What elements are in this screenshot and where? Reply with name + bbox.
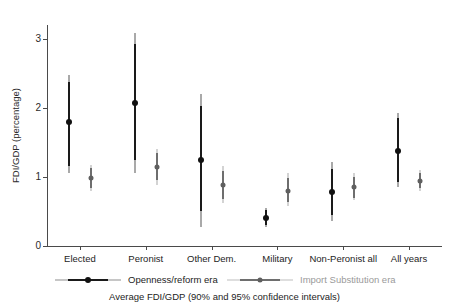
- data-point-marker: [418, 179, 423, 184]
- x-axis-tick-mark: [343, 246, 344, 250]
- legend-marker-icon: [55, 275, 121, 285]
- data-point-marker: [88, 175, 93, 180]
- plot-area: 0123 ElectedPeronistOther Dem.MilitaryNo…: [47, 25, 442, 246]
- legend: Openness/reform era Import Substitution …: [0, 272, 449, 288]
- x-axis-line: [47, 246, 442, 247]
- y-axis-tick-mark: [43, 177, 47, 178]
- legend-label-openness-reform-era: Openness/reform era: [128, 274, 218, 286]
- y-axis-tick-label: 3: [35, 34, 41, 44]
- y-axis-tick-mark: [43, 108, 47, 109]
- legend-marker-icon: [227, 275, 293, 285]
- legend-label-import-substitution-era: Import Substitution era: [300, 274, 396, 286]
- y-axis-tick-mark: [43, 39, 47, 40]
- x-axis-tick-mark: [146, 246, 147, 250]
- x-axis-tick-mark: [80, 246, 81, 250]
- x-axis-tick-label: Military: [262, 253, 292, 265]
- x-axis-tick-mark: [277, 246, 278, 250]
- legend-item-import-substitution-era[interactable]: Import Substitution era: [227, 272, 396, 288]
- x-axis-tick-label: Non-Peronist all: [309, 253, 377, 265]
- x-axis-tick-label: Peronist: [128, 253, 163, 265]
- data-point-marker: [154, 164, 159, 169]
- data-point-marker: [263, 215, 269, 221]
- y-axis-line: [47, 25, 48, 246]
- data-point-marker: [395, 148, 401, 154]
- legend-item-openness-reform-era[interactable]: Openness/reform era: [55, 272, 218, 288]
- x-axis-tick-label: Elected: [64, 253, 96, 265]
- fdi-gdp-confidence-interval-chart: 0123 ElectedPeronistOther Dem.MilitaryNo…: [0, 0, 449, 308]
- x-axis-tick-mark: [409, 246, 410, 250]
- data-point-marker: [220, 183, 225, 188]
- chart-caption: Average FDI/GDP (90% and 95% confidence …: [0, 291, 449, 303]
- x-axis-tick-label: Other Dem.: [187, 253, 236, 265]
- data-point-marker: [198, 157, 204, 163]
- y-axis-tick-label: 1: [35, 172, 41, 182]
- data-point-marker: [352, 185, 357, 190]
- x-axis-tick-label: All years: [391, 253, 427, 265]
- y-axis-tick-label: 0: [35, 241, 41, 251]
- y-axis-tick-mark: [43, 246, 47, 247]
- y-axis-tick-label: 2: [35, 103, 41, 113]
- data-point-marker: [66, 119, 72, 125]
- y-axis-title: FDI/GDP (percentage): [9, 25, 23, 246]
- data-point-marker: [286, 188, 291, 193]
- data-point-marker: [132, 100, 138, 106]
- data-point-marker: [329, 189, 335, 195]
- x-axis-tick-mark: [212, 246, 213, 250]
